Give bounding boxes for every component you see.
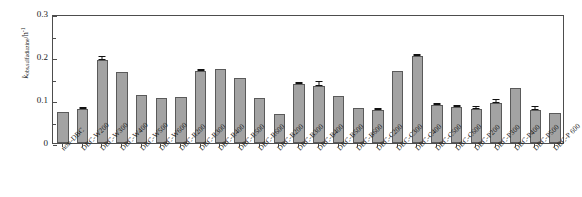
error-bar-cap bbox=[99, 56, 106, 57]
error-bar-cap bbox=[414, 55, 421, 56]
plot-area bbox=[52, 15, 564, 144]
y-axis-tick-label: 0.1 bbox=[22, 95, 48, 105]
error-bar-cap bbox=[197, 70, 204, 71]
error-bar-cap bbox=[99, 59, 106, 60]
bar-slot bbox=[77, 14, 88, 143]
y-axis-major-tick bbox=[53, 102, 57, 103]
y-axis-tick-label: 0.2 bbox=[22, 52, 48, 62]
error-bar-cap bbox=[532, 109, 539, 110]
error-bar-cap bbox=[315, 81, 322, 82]
y-axis-major-tick bbox=[53, 16, 57, 17]
error-bar-cap bbox=[79, 108, 86, 109]
bar-slot bbox=[57, 14, 68, 143]
y-axis-tick-labels: 00.10.20.3 bbox=[22, 0, 48, 197]
error-bar-cap bbox=[296, 83, 303, 84]
error-bar-cap bbox=[493, 102, 500, 103]
y-axis-minor-tick bbox=[53, 81, 56, 82]
error-bar-cap bbox=[453, 106, 460, 107]
error-bar-cap bbox=[532, 106, 539, 107]
error-bar-cap bbox=[473, 108, 480, 109]
y-axis-tick-label: 0 bbox=[22, 138, 48, 148]
error-bar-cap bbox=[374, 109, 381, 110]
y-axis-tick-label: 0.3 bbox=[22, 9, 48, 19]
bar-series bbox=[53, 16, 563, 143]
x-axis-tick-labels: non-DBCDBC-W200DBC-W300DBC-W400DBC-W500D… bbox=[52, 146, 564, 197]
error-bar-cap bbox=[315, 85, 322, 86]
error-bar-cap bbox=[493, 99, 500, 100]
y-axis-minor-tick bbox=[53, 124, 56, 125]
y-axis-minor-tick bbox=[53, 38, 56, 39]
y-axis-major-tick bbox=[53, 59, 57, 60]
error-bar-cap bbox=[433, 104, 440, 105]
